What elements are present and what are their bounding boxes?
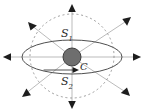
arrowhead-west <box>3 53 11 61</box>
arrowhead-south <box>68 101 76 109</box>
sphere-diagram-svg <box>0 0 144 112</box>
label-lower-surface-sub: 2 <box>69 83 73 91</box>
label-lower-surface-base: S <box>61 75 69 88</box>
arrowhead-northwest <box>28 22 37 31</box>
arrowhead-southeast <box>121 88 130 97</box>
arrowhead-east <box>133 53 141 61</box>
arrowhead-north <box>68 4 76 12</box>
label-upper-surface-base: S <box>61 27 69 40</box>
label-upper-surface: S1 <box>61 28 73 42</box>
label-upper-surface-sub: 1 <box>69 35 73 43</box>
figure-container: S1 S2 C <box>0 0 144 112</box>
central-sphere <box>63 48 81 66</box>
label-lower-surface: S2 <box>61 76 73 90</box>
arrowhead-southwest <box>22 89 31 98</box>
label-center-point-base: C <box>80 61 88 72</box>
label-center-point: C <box>80 62 88 72</box>
center-arrowhead <box>73 67 80 73</box>
arrowhead-northeast <box>122 17 131 26</box>
